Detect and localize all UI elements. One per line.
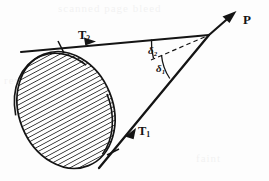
label-tangent-t1-subscript: 1 [146, 130, 150, 139]
ray-to-point-p [209, 11, 237, 35]
tangent-cone-drawing [0, 0, 269, 181]
label-tangent-t2: T2 [78, 29, 90, 43]
tangent-line-upper [21, 35, 209, 53]
label-angle-delta1-subscript: 1 [162, 68, 165, 75]
label-tangent-t2-subscript: 2 [86, 34, 90, 43]
label-point-p: P [243, 13, 251, 26]
label-angle-delta2: δ2 [148, 45, 157, 58]
label-tangent-t1: T1 [138, 125, 150, 139]
label-angle-delta1: δ1 [156, 63, 165, 76]
hatched-ellipse-disc [0, 35, 140, 181]
figure-container: scanned page bleed reverse side text fai… [0, 0, 269, 181]
label-angle-delta2-subscript: 2 [154, 50, 157, 57]
label-point-p-text: P [243, 12, 251, 27]
